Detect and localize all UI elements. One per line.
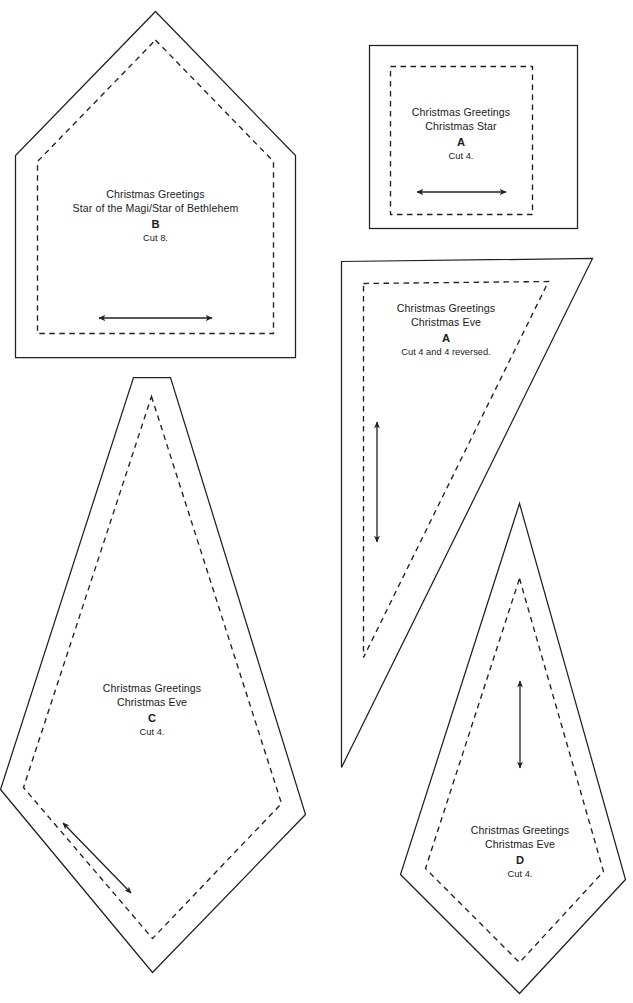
label-B-letter: B xyxy=(55,217,256,232)
label-A-eve-cut: Cut 4 and 4 reversed. xyxy=(366,346,526,358)
label-B-cut: Cut 8. xyxy=(55,232,256,244)
label-A-star: Christmas Greetings Christmas Star A Cut… xyxy=(381,106,541,162)
label-A-eve-line2: Christmas Eve xyxy=(366,316,526,330)
label-B-line1: Christmas Greetings xyxy=(55,188,256,202)
seam-line-D xyxy=(426,579,604,963)
label-A-eve-letter: A xyxy=(366,331,526,346)
label-A-eve: Christmas Greetings Christmas Eve A Cut … xyxy=(366,302,526,358)
template-shape-D xyxy=(401,504,626,994)
label-C-line2: Christmas Eve xyxy=(72,696,232,710)
template-shape-C xyxy=(1,378,306,973)
grain-arrow-C xyxy=(63,823,131,893)
label-D-cut: Cut 4. xyxy=(440,868,600,880)
label-A-star-line2: Christmas Star xyxy=(381,120,541,134)
label-D-line1: Christmas Greetings xyxy=(440,824,600,838)
label-B-line2: Star of the Magi/Star of Bethlehem xyxy=(55,202,256,216)
label-C: Christmas Greetings Christmas Eve C Cut … xyxy=(72,682,232,738)
label-C-line1: Christmas Greetings xyxy=(72,682,232,696)
label-D-line2: Christmas Eve xyxy=(440,838,600,852)
label-D: Christmas Greetings Christmas Eve D Cut … xyxy=(440,824,600,880)
template-shape-B xyxy=(16,12,296,358)
label-D-letter: D xyxy=(440,853,600,868)
label-A-star-line1: Christmas Greetings xyxy=(381,106,541,120)
label-A-star-letter: A xyxy=(381,135,541,150)
label-C-letter: C xyxy=(72,711,232,726)
cut-line-C xyxy=(1,378,306,973)
cut-line-B xyxy=(16,12,296,358)
label-A-eve-line1: Christmas Greetings xyxy=(366,302,526,316)
template-sheet: Christmas Greetings Star of the Magi/Sta… xyxy=(0,0,633,1003)
seam-line-C xyxy=(24,397,282,939)
label-C-cut: Cut 4. xyxy=(72,726,232,738)
cut-line-D xyxy=(401,504,626,994)
label-B: Christmas Greetings Star of the Magi/Sta… xyxy=(55,188,256,244)
seam-line-B xyxy=(38,40,274,334)
label-A-star-cut: Cut 4. xyxy=(381,150,541,162)
